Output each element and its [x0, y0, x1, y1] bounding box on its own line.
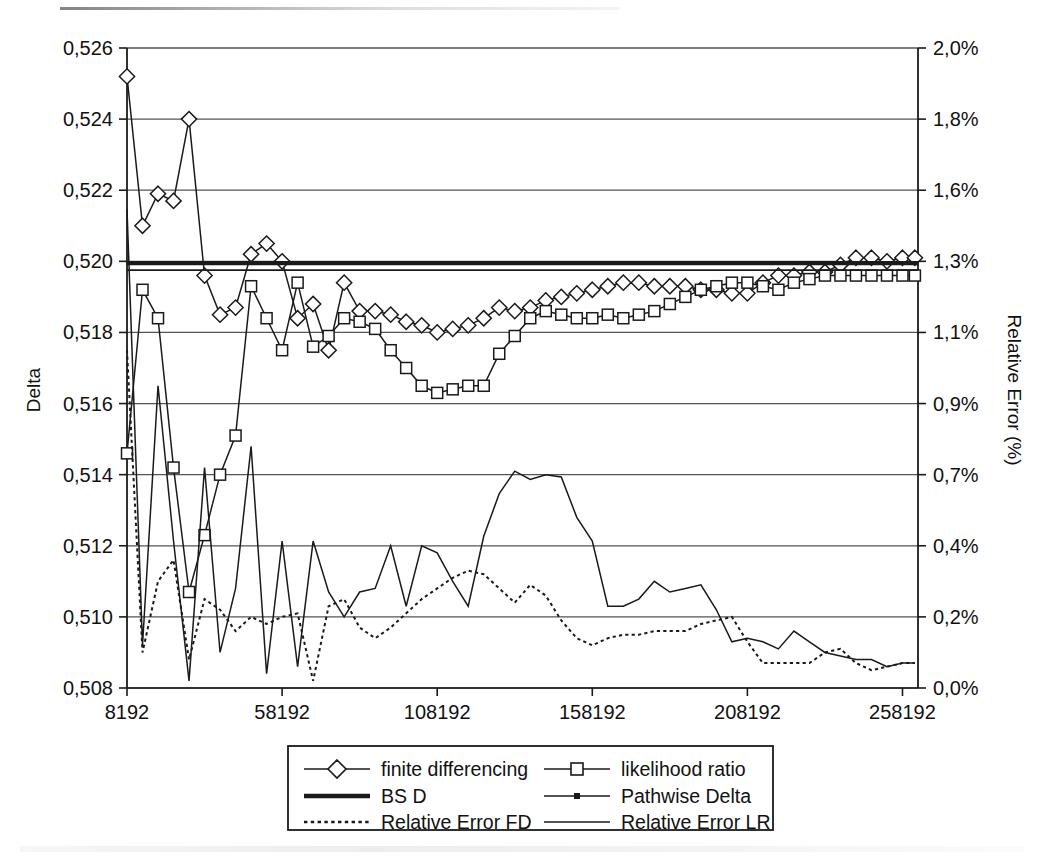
marker-diamond [507, 304, 522, 319]
y-tick-label: 0,512 [63, 535, 113, 557]
marker-diamond [492, 300, 507, 315]
marker-square [463, 380, 474, 391]
marker-square [773, 284, 784, 295]
series-finite-differencing [119, 69, 922, 358]
marker-diamond [243, 247, 258, 262]
marker-diamond [631, 275, 646, 290]
marker-diamond [228, 300, 243, 315]
marker-square [556, 309, 567, 320]
marker-diamond [445, 321, 460, 336]
marker-square [509, 331, 520, 342]
y2-tick-label: 0,0% [933, 677, 979, 699]
legend-marker-square [571, 763, 583, 775]
marker-square [230, 430, 241, 441]
series-likelihood-ratio [122, 270, 921, 597]
marker-square [292, 277, 303, 288]
y2-tick-label: 0,9% [933, 393, 979, 415]
y-tick-label: 0,518 [63, 321, 113, 343]
series-path [127, 350, 915, 681]
x-tick-label: 58192 [254, 701, 310, 723]
x-tick-label: 108192 [404, 701, 471, 723]
marker-diamond [337, 275, 352, 290]
marker-diamond [569, 286, 584, 301]
y-tick-label: 0,514 [63, 464, 113, 486]
y-tick-label: 0,526 [63, 37, 113, 59]
marker-square [788, 277, 799, 288]
y-tick-label: 0,510 [63, 606, 113, 628]
marker-square [726, 277, 737, 288]
marker-square [447, 384, 458, 395]
marker-diamond [321, 343, 336, 358]
marker-square [199, 530, 210, 541]
marker-square [540, 306, 551, 317]
gridlines [127, 48, 918, 688]
marker-square [881, 270, 892, 281]
y-tick-label: 0,508 [63, 677, 113, 699]
marker-diamond [383, 307, 398, 322]
marker-square [695, 284, 706, 295]
marker-square [909, 270, 920, 281]
marker-diamond [616, 275, 631, 290]
marker-square [742, 277, 753, 288]
marker-diamond [461, 318, 476, 333]
marker-square [587, 313, 598, 324]
legend-item-label: Pathwise Delta [621, 785, 751, 807]
y2-tick-label: 0,2% [933, 606, 979, 628]
axis-titles: DeltaRelative Error (%) [23, 315, 1025, 466]
marker-square [416, 380, 427, 391]
marker-square [137, 284, 148, 295]
marker-square [850, 270, 861, 281]
marker-square [819, 270, 830, 281]
axes [127, 48, 918, 688]
legend-item-label: Relative Error LR [621, 811, 771, 833]
marker-square [633, 309, 644, 320]
x-tick-label: 208192 [714, 701, 781, 723]
marker-square [866, 270, 877, 281]
marker-square [122, 448, 133, 459]
series-relative-error-fd [127, 350, 915, 681]
delta-convergence-chart: 0,5080,5100,5120,5140,5160,5180,5200,522… [0, 0, 1043, 859]
y2-tick-label: 0,7% [933, 464, 979, 486]
legend-item-finite-differencing[interactable]: finite differencing [304, 758, 528, 780]
y2-tick-label: 1,1% [933, 321, 979, 343]
marker-square [168, 462, 179, 473]
x-tick-label: 258192 [869, 701, 936, 723]
y2-tick-label: 1,8% [933, 108, 979, 130]
y2-tick-label: 0,4% [933, 535, 979, 557]
marker-diamond [662, 279, 677, 294]
marker-square [711, 281, 722, 292]
marker-square [153, 313, 164, 324]
marker-square [525, 313, 536, 324]
legend[interactable]: finite differencinglikelihood ratioBS DP… [288, 746, 773, 833]
y2-tick-label: 1,3% [933, 250, 979, 272]
marker-diamond [181, 112, 196, 127]
marker-square [478, 380, 489, 391]
marker-square [184, 587, 195, 598]
series-path [127, 276, 915, 592]
marker-square [308, 341, 319, 352]
y2-axis-title: Relative Error (%) [1004, 315, 1025, 466]
marker-square [804, 274, 815, 285]
marker-diamond [399, 314, 414, 329]
y2-tick-label: 2,0% [933, 37, 979, 59]
marker-square [571, 313, 582, 324]
y-axis-title: Delta [23, 367, 44, 412]
marker-square [354, 316, 365, 327]
marker-diamond [150, 186, 165, 201]
legend-marker-tiny-square [575, 794, 580, 799]
legend-item-label: likelihood ratio [621, 758, 746, 780]
series-layer [119, 69, 922, 681]
legend-item-label: finite differencing [381, 758, 528, 780]
marker-diamond [368, 304, 383, 319]
tick-labels: 0,5080,5100,5120,5140,5160,5180,5200,522… [63, 37, 979, 723]
x-tick-label: 158192 [559, 701, 626, 723]
axis-ticks [119, 48, 926, 696]
marker-square [649, 306, 660, 317]
marker-square [835, 270, 846, 281]
y-tick-label: 0,520 [63, 250, 113, 272]
marker-diamond [585, 282, 600, 297]
marker-square [618, 313, 629, 324]
legend-item-label: BS D [381, 785, 427, 807]
marker-square [385, 345, 396, 356]
marker-square [897, 270, 908, 281]
